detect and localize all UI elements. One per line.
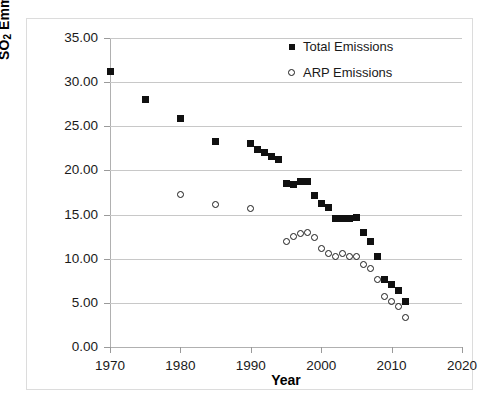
- data-point: [325, 204, 332, 211]
- x-axis-tick: [180, 347, 181, 353]
- x-axis-tick: [321, 347, 322, 353]
- x-axis-tick: [110, 347, 111, 353]
- y-axis-title: SO2 Emmisions 106ton/yr: [0, 0, 13, 60]
- x-axis-line: [110, 347, 462, 348]
- data-point: [283, 180, 290, 187]
- x-axis-tick: [462, 347, 463, 353]
- legend-item-total-emissions: Total Emissions: [285, 40, 393, 53]
- legend-item-arp-emissions: ARP Emissions: [285, 66, 393, 79]
- data-point: [402, 314, 409, 321]
- x-tick-label: 2010: [362, 359, 422, 373]
- data-point: [332, 215, 339, 222]
- open-circle-icon: [285, 69, 298, 76]
- x-axis-title: Year: [110, 372, 462, 388]
- y-axis-tick: [104, 38, 110, 39]
- data-point: [212, 201, 219, 208]
- data-point: [381, 293, 388, 300]
- data-point: [318, 245, 325, 252]
- data-point: [318, 200, 325, 207]
- data-point: [346, 215, 353, 222]
- y-axis-tick: [104, 259, 110, 260]
- y-axis-title-middle: Emmisions 10: [0, 0, 12, 34]
- data-point: [395, 303, 402, 310]
- data-point: [339, 215, 346, 222]
- data-point: [346, 253, 353, 260]
- data-point: [107, 68, 114, 75]
- data-point: [177, 115, 184, 122]
- data-point: [388, 281, 395, 288]
- y-tick-label: 15.00: [36, 208, 98, 222]
- data-point: [395, 287, 402, 294]
- x-axis-tick: [392, 347, 393, 353]
- x-tick-label: 1970: [80, 359, 140, 373]
- legend-label-arp-emissions: ARP Emissions: [303, 66, 392, 79]
- data-point: [325, 250, 332, 257]
- data-point: [367, 238, 374, 245]
- x-tick-label: 1990: [221, 359, 281, 373]
- y-axis-tick: [104, 215, 110, 216]
- y-axis-title-subscript: 2: [2, 34, 13, 40]
- gridline: [110, 303, 462, 304]
- data-point: [297, 178, 304, 185]
- data-point: [304, 229, 311, 236]
- data-point: [360, 261, 367, 268]
- y-tick-label: 35.00: [36, 31, 98, 45]
- y-axis-tick: [104, 82, 110, 83]
- x-tick-label: 1980: [150, 359, 210, 373]
- data-point: [268, 153, 275, 160]
- data-point: [381, 276, 388, 283]
- chart-legend: Total Emissions ARP Emissions: [285, 40, 393, 92]
- data-point: [297, 230, 304, 237]
- y-tick-label: 20.00: [36, 163, 98, 177]
- data-point: [177, 191, 184, 198]
- data-point: [374, 276, 381, 283]
- y-axis-tick: [104, 126, 110, 127]
- data-point: [290, 181, 297, 188]
- data-point: [402, 298, 409, 305]
- gridline: [110, 215, 462, 216]
- y-tick-label: 5.00: [36, 296, 98, 310]
- x-axis-tick: [251, 347, 252, 353]
- data-point: [212, 138, 219, 145]
- data-point: [283, 238, 290, 245]
- legend-label-total-emissions: Total Emissions: [303, 40, 393, 53]
- y-tick-label: 30.00: [36, 75, 98, 89]
- data-point: [311, 192, 318, 199]
- x-tick-label: 2000: [291, 359, 351, 373]
- data-point: [290, 233, 297, 240]
- so2-emissions-scatter-figure: SO2 Emmisions 106ton/yr Year 0.005.0010.…: [0, 0, 500, 416]
- y-tick-label: 25.00: [36, 119, 98, 133]
- data-point: [247, 205, 254, 212]
- y-tick-label: 0.00: [36, 340, 98, 354]
- x-tick-label: 2020: [432, 359, 492, 373]
- data-point: [353, 214, 360, 221]
- data-point: [388, 298, 395, 305]
- data-point: [275, 156, 282, 163]
- gridline: [110, 126, 462, 127]
- data-point: [142, 96, 149, 103]
- data-point: [261, 149, 268, 156]
- y-axis-tick: [104, 170, 110, 171]
- data-point: [360, 229, 367, 236]
- gridline: [110, 38, 462, 39]
- data-point: [311, 234, 318, 241]
- y-axis-title-prefix: SO: [0, 40, 12, 60]
- data-point: [247, 140, 254, 147]
- y-axis-tick: [104, 303, 110, 304]
- y-tick-label: 10.00: [36, 252, 98, 266]
- data-point: [339, 250, 346, 257]
- data-point: [254, 146, 261, 153]
- data-point: [367, 265, 374, 272]
- data-point: [304, 178, 311, 185]
- gridline: [110, 170, 462, 171]
- data-point: [374, 253, 381, 260]
- gridline: [110, 259, 462, 260]
- filled-square-icon: [285, 44, 298, 50]
